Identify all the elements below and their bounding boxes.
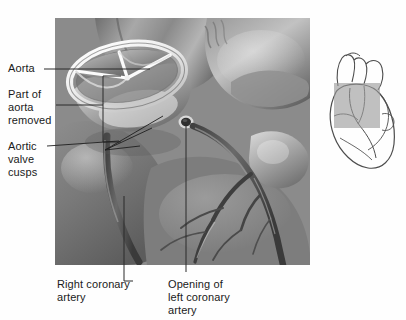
leader-cusp-3 [105, 116, 163, 150]
orientation-inset [316, 52, 404, 174]
label-right-coronary-artery: Right coronary artery [57, 278, 130, 304]
inset-heart-drawing [316, 52, 404, 174]
inset-aortic-arch [354, 58, 367, 84]
label-opening-left-coronary-artery: Opening of left coronary artery [168, 278, 230, 318]
label-aortic-valve-cusps: Aortic valve cusps [8, 140, 37, 180]
label-aorta: Aorta [8, 62, 35, 75]
inset-svc [337, 55, 355, 86]
inset-region-highlight [334, 83, 380, 128]
leader-cusp-1 [47, 141, 119, 146]
aortic-valve-figure: Aorta Part of aorta removed Aortic valve… [0, 0, 406, 320]
leader-cusp-2 [105, 128, 152, 150]
label-part-of-aorta-removed: Part of aorta removed [8, 88, 52, 128]
